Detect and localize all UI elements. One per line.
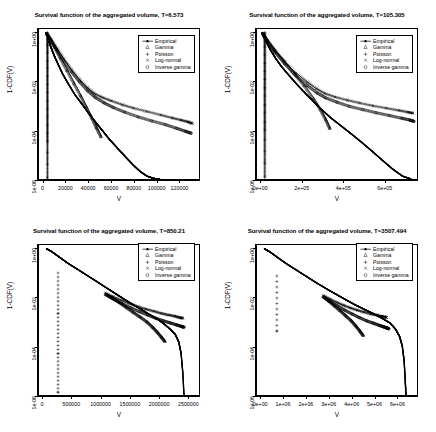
y-tick-label: 1e-02 xyxy=(31,81,37,95)
x-tick xyxy=(130,396,131,399)
panel-4-legend: EmpiricalGammaPoissonLog-normalInverse g… xyxy=(356,243,413,281)
panel-2-legend: EmpiricalGammaPoissonLog-normalInverse g… xyxy=(356,35,413,73)
y-axis-line xyxy=(255,244,256,396)
x-tick-label: 40000 xyxy=(81,185,96,191)
x-tick-label: 60000 xyxy=(104,185,119,191)
series-log-normal xyxy=(104,292,184,320)
y-tick-label: 1e-06 xyxy=(31,396,37,410)
y-axis-line xyxy=(37,244,38,396)
x-tick-label: 0e+00 xyxy=(253,185,268,191)
x-tick xyxy=(343,180,344,183)
panel-3: Survival function of the aggregated volu… xyxy=(0,216,218,432)
x-tick xyxy=(397,396,398,399)
circle-icon xyxy=(359,64,373,70)
x-tick-label: 6e+06 xyxy=(390,401,405,407)
x-tick-label: 2500000 xyxy=(178,401,199,407)
series-poisson xyxy=(275,275,278,333)
x-tick xyxy=(88,180,89,183)
x-tick-label: 5e+06 xyxy=(367,401,382,407)
legend-label: Inverse gamma xyxy=(155,64,191,70)
y-tick-label: 1e-02 xyxy=(249,297,255,311)
panel-1-title: Survival function of the aggregated volu… xyxy=(0,11,218,19)
x-axis-line xyxy=(38,396,200,397)
panel-2: Survival function of the aggregated volu… xyxy=(218,0,436,216)
y-tick-label: 1e+00 xyxy=(31,32,37,47)
panel-1-y-axis-title: 1-CDF(V) xyxy=(6,45,13,115)
x-tick xyxy=(260,180,261,183)
y-tick-label: 1e-06 xyxy=(31,180,37,194)
x-tick xyxy=(329,396,330,399)
x-tick xyxy=(157,180,158,183)
x-tick xyxy=(302,180,303,183)
y-tick-label: 1e-04 xyxy=(249,347,255,361)
x-tick xyxy=(42,396,43,399)
x-tick-label: 0e+00 xyxy=(253,401,268,407)
x-axis-line xyxy=(38,180,200,181)
x-tick xyxy=(188,396,189,399)
x-tick xyxy=(352,396,353,399)
x-tick-label: 120000 xyxy=(171,185,189,191)
x-tick-label: 2e+05 xyxy=(294,185,309,191)
x-tick-label: 1000000 xyxy=(90,401,111,407)
panel-3-y-axis: 1e+001e-021e-041e-06 xyxy=(24,244,38,396)
x-tick xyxy=(260,396,261,399)
x-tick xyxy=(111,180,112,183)
y-tick-label: 1e+00 xyxy=(31,248,37,263)
legend-item-inverse-gamma: Inverse gamma xyxy=(359,272,409,278)
panel-1-x-axis-title: V xyxy=(38,195,200,202)
panel-3-legend: EmpiricalGammaPoissonLog-normalInverse g… xyxy=(138,243,195,281)
x-tick xyxy=(65,180,66,183)
x-tick-label: 1e+06 xyxy=(276,401,291,407)
y-tick-label: 1e+00 xyxy=(249,248,255,263)
panel-2-title: Survival function of the aggregated volu… xyxy=(218,11,436,19)
y-axis-line xyxy=(255,28,256,180)
survival-function-figure-grid: Survival function of the aggregated volu… xyxy=(0,0,436,432)
x-axis-line xyxy=(256,396,418,397)
x-tick xyxy=(159,396,160,399)
legend-label: Inverse gamma xyxy=(373,272,409,278)
panel-3-x-axis-title: V xyxy=(38,411,200,418)
legend-item-inverse-gamma: Inverse gamma xyxy=(359,64,409,70)
series-poisson xyxy=(57,271,60,393)
panel-1: Survival function of the aggregated volu… xyxy=(0,0,218,216)
panel-4-y-axis-title: 1-CDF(V) xyxy=(224,261,231,331)
x-tick xyxy=(385,180,386,183)
circle-icon xyxy=(141,272,155,278)
legend-label: Inverse gamma xyxy=(155,272,191,278)
x-tick-label: 2e+06 xyxy=(298,401,313,407)
x-tick-label: 3e+06 xyxy=(321,401,336,407)
series-poisson xyxy=(46,31,49,179)
x-tick xyxy=(375,396,376,399)
series-poisson xyxy=(263,31,266,178)
panel-2-x-axis-title: V xyxy=(256,195,418,202)
x-tick-label: 4e+05 xyxy=(336,185,351,191)
x-tick xyxy=(306,396,307,399)
x-tick xyxy=(283,396,284,399)
circle-icon xyxy=(141,64,155,70)
y-tick-label: 1e-02 xyxy=(31,297,37,311)
x-tick xyxy=(179,180,180,183)
series-log-normal xyxy=(322,294,388,318)
panel-3-title: Survival function of the aggregated volu… xyxy=(0,227,218,235)
panel-2-y-axis-title: 1-CDF(V) xyxy=(224,45,231,115)
legend-label: Inverse gamma xyxy=(373,64,409,70)
panel-4-title: Survival function of the aggregated volu… xyxy=(218,227,436,235)
y-tick-label: 1e-04 xyxy=(31,131,37,145)
y-tick-label: 1e-04 xyxy=(249,131,255,145)
panel-2-y-axis: 1e+001e-021e-041e-06 xyxy=(242,28,256,180)
legend-item-inverse-gamma: Inverse gamma xyxy=(141,64,191,70)
panel-1-legend: EmpiricalGammaPoissonLog-normalInverse g… xyxy=(138,35,195,73)
x-tick xyxy=(101,396,102,399)
x-tick-label: 80000 xyxy=(126,185,141,191)
x-tick-label: 2000000 xyxy=(149,401,170,407)
y-tick-label: 1e-04 xyxy=(31,347,37,361)
panel-4: Survival function of the aggregated volu… xyxy=(218,216,436,432)
x-tick-label: 0 xyxy=(41,185,44,191)
y-axis-line xyxy=(37,28,38,180)
x-tick-label: 6e+05 xyxy=(377,185,392,191)
x-axis-line xyxy=(256,180,418,181)
y-tick-label: 1e+00 xyxy=(249,32,255,47)
x-tick-label: 100000 xyxy=(148,185,166,191)
panel-4-x-axis-title: V xyxy=(256,411,418,418)
y-tick-label: 1e-02 xyxy=(249,81,255,95)
